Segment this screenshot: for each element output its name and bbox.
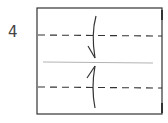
center-crease-line [43, 62, 153, 63]
bottom-valley-fold-line [38, 87, 162, 88]
fold-down-arrow-icon [88, 16, 96, 58]
paper-outline [37, 8, 162, 114]
top-valley-fold-line [38, 35, 162, 36]
fold-diagram [0, 0, 168, 123]
